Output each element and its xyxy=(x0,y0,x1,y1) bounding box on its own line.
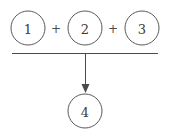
operand-label-3: 3 xyxy=(138,22,146,37)
plus-operator-1: + xyxy=(51,22,61,36)
operand-node-3: 3 xyxy=(125,11,159,45)
result-arrow-head xyxy=(82,84,90,93)
operand-label-1: 1 xyxy=(24,22,32,37)
addition-diagram-svg: 1 + 2 + 3 4 xyxy=(0,0,170,133)
operand-label-2: 2 xyxy=(81,22,89,37)
diagram-canvas: 1 + 2 + 3 4 xyxy=(0,0,170,133)
operand-node-1: 1 xyxy=(11,11,45,45)
result-label-4: 4 xyxy=(81,105,89,120)
result-node-4: 4 xyxy=(68,94,102,128)
operand-node-2: 2 xyxy=(68,11,102,45)
plus-operator-2: + xyxy=(108,22,118,36)
